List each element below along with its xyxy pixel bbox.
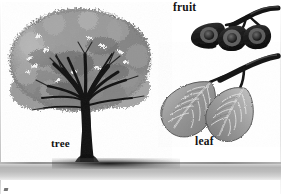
tree-shadow <box>52 158 180 169</box>
label-fruit: fruit <box>173 2 196 14</box>
label-leaf: leaf <box>195 136 214 148</box>
corner-tick-mark <box>4 188 9 191</box>
label-tree: tree <box>51 138 70 149</box>
leaf-illustration <box>158 42 281 147</box>
botanical-plate: tree leaf fruit <box>0 0 281 194</box>
tree-illustration <box>2 2 172 172</box>
